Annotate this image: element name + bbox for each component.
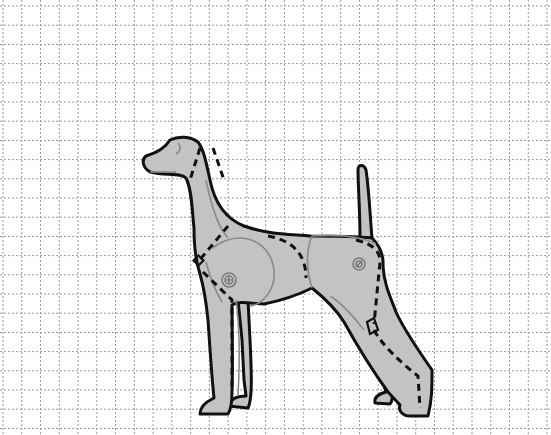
- tail: [358, 166, 372, 239]
- diagram-canvas: Dog template on grid: [0, 0, 551, 435]
- dotted-grid: [0, 0, 551, 435]
- dog-diagram: [0, 0, 551, 435]
